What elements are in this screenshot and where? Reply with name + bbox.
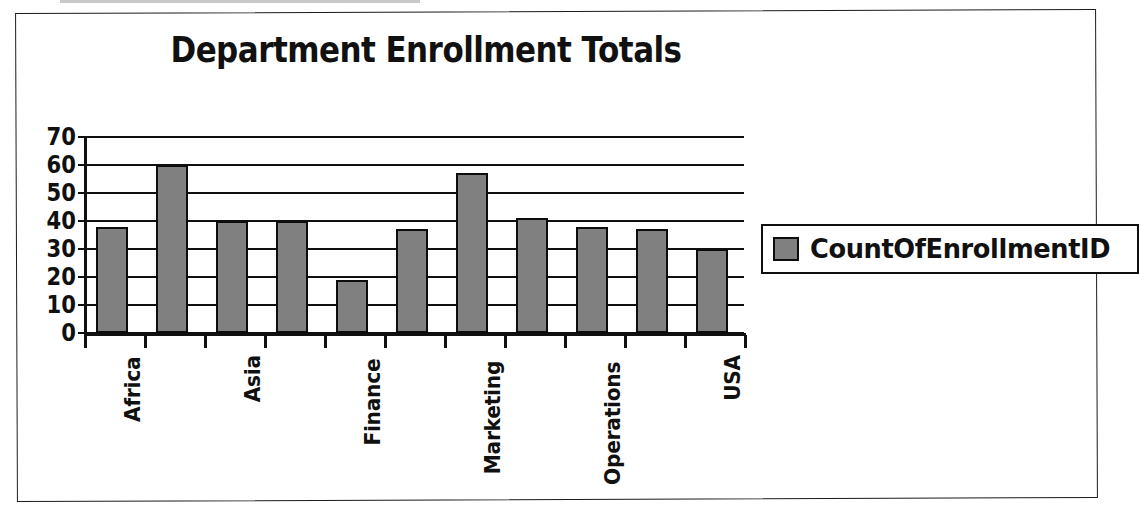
legend-label-countofenrollmentid: CountOfEnrollmentID (810, 233, 1110, 264)
bar (456, 173, 487, 333)
x-tick-mark (384, 335, 387, 348)
x-axis-tick-marks (84, 335, 746, 348)
y-tick-label-70: 70 (27, 125, 76, 149)
bar (96, 227, 127, 333)
plot-area (84, 137, 744, 333)
y-axis-tick-labels: 010203040506070 (16, 137, 76, 333)
chart-title: Department Enrollment Totals (73, 29, 778, 70)
x-axis-tick-labels: AfricaAsiaFinanceMarketingOperationsUSA (84, 351, 746, 491)
x-tick-mark (204, 335, 207, 348)
x-tick-mark (564, 335, 567, 348)
x-tick-mark (324, 335, 327, 348)
x-tick-mark (624, 335, 627, 348)
bar (336, 280, 367, 333)
x-tick-mark (84, 335, 87, 348)
chart-legend: CountOfEnrollmentID (761, 224, 1139, 274)
bar (156, 165, 187, 333)
bar (576, 227, 607, 333)
bar (276, 221, 307, 333)
y-tick-label-60: 60 (27, 153, 76, 177)
x-tick-label-asia: Asia (240, 351, 265, 402)
bar (516, 218, 547, 333)
scan-artifact (60, 0, 420, 3)
y-tick-label-50: 50 (27, 181, 76, 205)
bar (696, 249, 727, 333)
y-tick-label-0: 0 (27, 321, 76, 345)
bar (216, 221, 247, 333)
bar (636, 229, 667, 333)
x-tick-mark (684, 335, 687, 348)
x-tick-mark (444, 335, 447, 348)
x-tick-label-marketing: Marketing (480, 351, 505, 474)
x-tick-label-usa: USA (720, 351, 745, 401)
y-tick-label-30: 30 (27, 237, 76, 261)
bar (396, 229, 427, 333)
x-tick-label-finance: Finance (360, 351, 385, 446)
y-tick-label-20: 20 (27, 265, 76, 289)
y-tick-label-10: 10 (27, 293, 76, 317)
x-tick-mark (144, 335, 147, 348)
legend-swatch-countofenrollmentid (773, 237, 799, 261)
bar-chart: Department Enrollment Totals 01020304050… (16, 11, 1097, 500)
y-tick-label-40: 40 (27, 209, 76, 233)
x-tick-mark (744, 335, 747, 348)
bars-layer (86, 137, 744, 333)
x-tick-mark (264, 335, 267, 348)
x-tick-label-africa: Africa (120, 351, 145, 422)
x-tick-mark (504, 335, 507, 348)
x-tick-label-operations: Operations (600, 351, 625, 485)
